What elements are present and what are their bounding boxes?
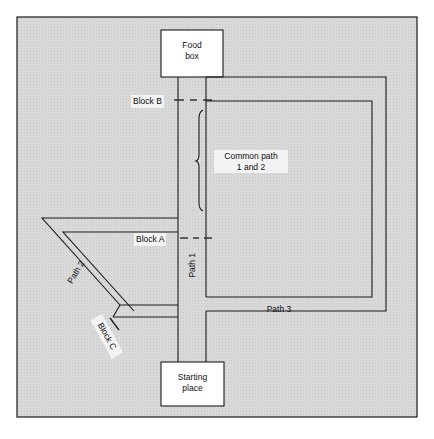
common-path-label-line1: Common path [216, 151, 286, 162]
block-a-label: Block A [134, 233, 166, 246]
food-box-label: Food box [161, 40, 223, 61]
block-b-label: Block B [131, 95, 164, 108]
common-path-label-line2: 1 and 2 [216, 162, 286, 173]
path-1-label: Path 1 [187, 246, 198, 284]
food-box-label-line2: box [161, 51, 223, 62]
starting-place-label: Starting place [161, 372, 224, 393]
starting-place-label-line2: place [161, 383, 224, 394]
maze-figure: Food box Starting place Block B Block A … [0, 0, 434, 439]
common-path-label: Common path 1 and 2 [214, 150, 288, 173]
path-3-label: Path 3 [257, 304, 301, 315]
food-box-label-line1: Food [161, 40, 223, 51]
starting-place-label-line1: Starting [161, 372, 224, 383]
